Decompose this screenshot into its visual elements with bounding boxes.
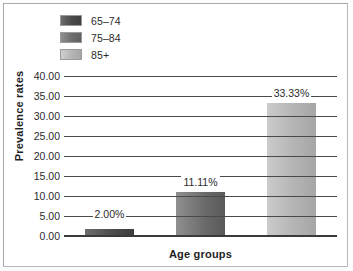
y-tick-label: 10.00	[14, 191, 60, 201]
legend-item-75-84: 75–84	[60, 29, 180, 46]
legend-item-85-plus: 85+	[60, 46, 180, 63]
legend-swatch-75-84	[60, 32, 82, 43]
legend-swatch-85-plus	[60, 49, 82, 60]
legend-label-65-74: 65–74	[91, 15, 121, 27]
bar-value-label-65-74: 2.00%	[70, 208, 149, 220]
y-tick-label: 40.00	[14, 71, 60, 81]
y-tick-label: 30.00	[14, 111, 60, 121]
y-axis-ticks: 40.00 35.00 30.00 25.00 20.00 15.00 10.0…	[10, 76, 60, 237]
gridline-40	[64, 76, 337, 77]
gridline-30	[64, 116, 337, 117]
y-tick-label: 0.00	[14, 231, 60, 241]
gridline-20	[64, 156, 337, 157]
gridline-25	[64, 136, 337, 137]
y-tick-label: 15.00	[14, 171, 60, 181]
x-axis-baseline	[64, 235, 337, 237]
y-tick-label: 20.00	[14, 151, 60, 161]
legend-item-65-74: 65–74	[60, 12, 180, 29]
bar-75-84	[176, 192, 225, 237]
legend-label-75-84: 75–84	[91, 32, 121, 44]
bar-value-label-85-plus: 33.33%	[252, 87, 331, 99]
y-tick-label: 5.00	[14, 211, 60, 221]
legend-swatch-65-74	[60, 15, 82, 26]
chart-legend: 65–74 75–84 85+	[60, 12, 180, 63]
x-axis-title: Age groups	[64, 248, 337, 260]
y-tick-label: 25.00	[14, 131, 60, 141]
y-tick-label: 35.00	[14, 91, 60, 101]
gridline-10	[64, 196, 337, 197]
legend-label-85-plus: 85+	[91, 49, 109, 61]
bar-value-label-75-84: 11.11%	[161, 176, 240, 188]
plot-area: 2.00% 11.11% 33.33%	[64, 76, 337, 237]
chart-figure: 65–74 75–84 85+ Prevalence rates 40.00 3…	[0, 0, 353, 271]
